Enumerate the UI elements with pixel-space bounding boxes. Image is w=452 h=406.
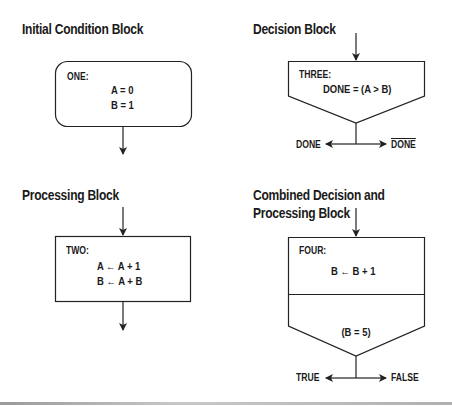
flowchart-shapes [0,0,452,406]
decision-right-branch-not-done: DONE [391,139,416,150]
initial-condition-line-1: A = 0 [111,84,134,96]
processing-line-2: B ← A + B [97,275,142,287]
initial-condition-line-2: B = 1 [111,99,134,111]
combined-process-line: B ← B + 1 [331,265,375,277]
bottom-divider [0,402,452,405]
combined-label: FOUR: [299,245,326,256]
combined-title-line-2: Processing Block [253,205,350,221]
combined-false-branch: FALSE [391,372,419,383]
processing-label: TWO: [66,245,89,256]
decision-title: Decision Block [253,21,336,37]
combined-true-branch: TRUE [296,372,319,383]
decision-left-branch: DONE [296,139,321,150]
combined-title-line-1: Combined Decision and [253,187,385,203]
decision-label: THREE: [299,69,331,80]
decision-expression: DONE = (A > B) [323,83,392,95]
initial-condition-label: ONE: [67,71,89,82]
processing-line-1: A ← A + 1 [97,260,140,272]
initial-condition-title: Initial Condition Block [22,21,143,37]
processing-title: Processing Block [22,187,119,203]
combined-condition: (B = 5) [341,326,370,338]
